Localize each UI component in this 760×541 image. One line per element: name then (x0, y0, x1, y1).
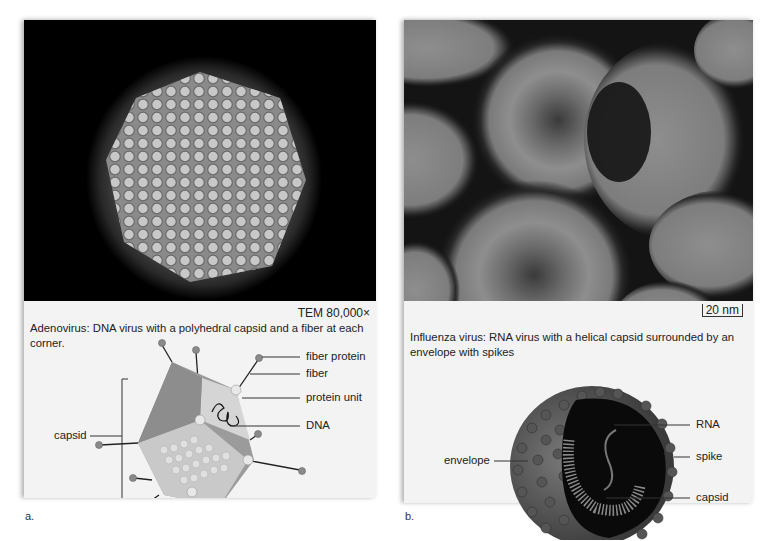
panel-a-adenovirus: TEM 80,000× Adenovirus: DNA virus with a… (24, 20, 376, 498)
label-capsid-a: capsid (54, 429, 87, 441)
label-capsid-b: capsid (696, 491, 729, 503)
label-protein-unit: protein unit (306, 391, 362, 403)
label-spike: spike (696, 450, 722, 462)
label-dna: DNA (306, 419, 330, 431)
label-rna: RNA (696, 418, 720, 430)
panel-b-influenza: 20 nm Influenza virus: RNA virus with a … (404, 20, 753, 503)
panel-letter-b: b. (405, 510, 414, 522)
label-fiber: fiber (306, 367, 328, 379)
label-envelope: envelope (444, 454, 490, 466)
label-fiber-protein: fiber protein (306, 350, 366, 362)
panel-letter-a: a. (25, 510, 34, 522)
